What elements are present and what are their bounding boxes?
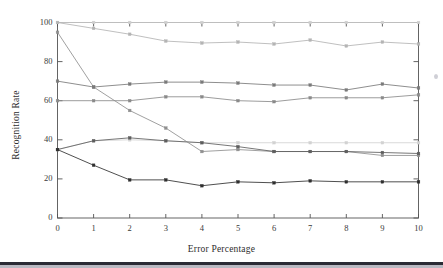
x-tick-label: 2 xyxy=(120,223,140,233)
x-tick-label: 9 xyxy=(372,223,392,233)
x-axis-title: Error Percentage xyxy=(0,244,443,254)
series-3 xyxy=(56,31,420,157)
series-8 xyxy=(56,148,420,187)
y-tick-label: 40 xyxy=(27,134,53,144)
x-tick-label: 10 xyxy=(409,223,429,233)
y-tick-label: 20 xyxy=(27,173,53,183)
y-tick-label: 80 xyxy=(27,56,53,66)
y-tick-label: 100 xyxy=(27,17,53,27)
series-4 xyxy=(56,80,420,91)
y-axis-title: Recognition Rate xyxy=(11,75,21,175)
data-series-layer xyxy=(56,21,420,187)
chart-figure: Recognition Rate Error Percentage 020406… xyxy=(0,0,443,268)
x-tick-label: 6 xyxy=(264,223,284,233)
x-tick-label: 3 xyxy=(156,223,176,233)
page-speck xyxy=(434,74,438,79)
x-tick-label: 8 xyxy=(336,223,356,233)
x-tick-label: 1 xyxy=(84,223,104,233)
x-tick-label: 7 xyxy=(300,223,320,233)
y-tick-label: 0 xyxy=(27,212,53,222)
x-axis-tick-marks xyxy=(58,23,419,219)
series-1 xyxy=(56,21,420,24)
y-axis-tick-marks xyxy=(58,23,419,219)
x-tick-label: 4 xyxy=(192,223,212,233)
x-tick-label: 5 xyxy=(228,223,248,233)
series-7 xyxy=(56,137,420,155)
y-tick-label: 60 xyxy=(27,95,53,105)
x-tick-label: 0 xyxy=(48,223,68,233)
plot-frame xyxy=(58,23,419,219)
